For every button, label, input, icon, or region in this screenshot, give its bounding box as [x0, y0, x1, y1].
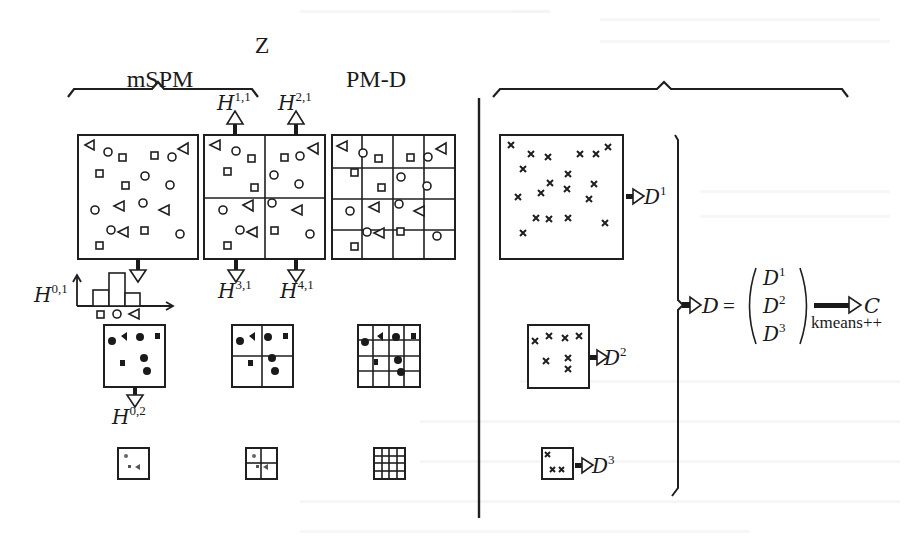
figure-title: Z	[255, 32, 270, 58]
mspm-level0-region	[78, 135, 198, 259]
mspm-scale3-level0	[118, 448, 149, 479]
mspm-scale2-level1	[232, 325, 293, 387]
mspm-scale2-level2	[358, 325, 420, 387]
codebook-c-label: C	[864, 294, 880, 318]
arrow-down-level0	[130, 259, 146, 282]
concatenation-equation: D = D1 D2 D3	[701, 264, 807, 346]
arrow-right-kmeans	[814, 297, 861, 313]
histogram-bar-circle	[109, 273, 125, 306]
circle-icon	[104, 148, 112, 156]
mspm-scale2-level0	[104, 325, 165, 387]
circle-icon	[91, 206, 99, 214]
circle-icon	[166, 181, 174, 189]
h21-label: H2,1	[277, 89, 312, 115]
histogram-bar-square	[93, 290, 109, 306]
square-icon	[96, 170, 103, 177]
right-paren	[800, 268, 807, 344]
mspm-scale3-level2	[374, 448, 405, 479]
pmd-descriptor-region-1	[500, 135, 623, 259]
square-icon	[96, 242, 103, 249]
square-icon	[97, 311, 104, 318]
mspm-level1-region	[204, 135, 325, 259]
h31-label: H3,1	[217, 277, 252, 303]
diagram-canvas: Z mSPM PM-D	[0, 0, 920, 544]
circle-icon	[139, 199, 147, 207]
equation-equals: =	[723, 294, 735, 318]
circle-icon	[176, 230, 184, 238]
mspm-scale3-level1	[246, 448, 277, 479]
pmd-descriptor-region-3	[542, 448, 573, 479]
vector-d2: D2	[762, 292, 786, 318]
circle-icon	[141, 172, 149, 180]
h11-label: H1,1	[216, 89, 251, 115]
square-icon	[119, 154, 126, 161]
circle-icon	[113, 310, 121, 318]
h02-label: H0,2	[111, 403, 146, 429]
circle-icon	[107, 226, 115, 234]
pmd-brace	[493, 82, 848, 97]
d1-label: D1	[643, 183, 667, 209]
square-icon	[122, 182, 129, 189]
pmd-section-label: PM-D	[346, 66, 406, 92]
h01-label: H0,1	[33, 281, 68, 307]
descriptor-collect-brace	[672, 135, 683, 496]
d3-label: D3	[591, 452, 615, 478]
vector-d3: D3	[762, 320, 786, 346]
circle-icon	[168, 153, 176, 161]
pmd-descriptor-region-2	[528, 325, 589, 388]
d2-label: D2	[603, 344, 627, 370]
left-paren	[750, 268, 757, 344]
histogram-h01	[73, 273, 173, 319]
vector-d1: D1	[762, 264, 786, 290]
square-icon	[151, 152, 158, 159]
equation-lhs: D	[701, 294, 719, 318]
histogram-bar-triangle	[125, 293, 140, 306]
triangle-icon	[129, 309, 139, 319]
arrow-right-d1	[626, 189, 644, 204]
h41-label: H4,1	[279, 277, 314, 303]
square-icon	[141, 227, 148, 234]
arrow-right-d	[682, 297, 701, 313]
